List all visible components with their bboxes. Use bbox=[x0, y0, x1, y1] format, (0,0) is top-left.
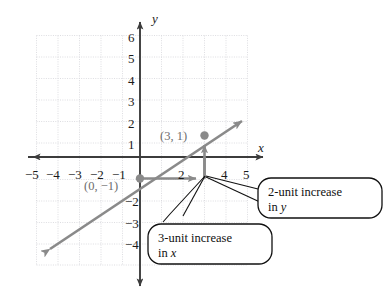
y-tick-2: 2 bbox=[128, 117, 135, 130]
y-tick-4: 4 bbox=[128, 74, 135, 87]
point-3-1 bbox=[200, 131, 208, 139]
x-tick-4: 4 bbox=[221, 168, 228, 181]
callout-rise-text: 2-unit increase in y bbox=[268, 185, 342, 215]
y-tick-minus3: −3 bbox=[125, 217, 139, 230]
x-tick-minus4: −4 bbox=[46, 168, 60, 181]
y-tick-minus2: −2 bbox=[125, 195, 139, 208]
x-tick-5: 5 bbox=[243, 168, 250, 181]
y-tick-1: 1 bbox=[128, 138, 135, 151]
y-axis-label: y bbox=[152, 12, 158, 25]
x-tick-minus5: −5 bbox=[25, 168, 39, 181]
point-label-0-minus1: (0, −1) bbox=[84, 180, 118, 193]
x-tick-minus3: −3 bbox=[68, 168, 82, 181]
callout-rise-line1: 2-unit increase bbox=[268, 185, 342, 199]
callout-run-line2-prefix: in bbox=[158, 246, 171, 260]
y-tick-minus4: −4 bbox=[125, 238, 139, 251]
x-axis-label: x bbox=[258, 141, 264, 154]
callout-run-line2-var: x bbox=[171, 246, 177, 260]
point-0-minus1 bbox=[136, 174, 144, 182]
y-tick-3: 3 bbox=[128, 95, 135, 108]
callout-run-text: 3-unit increase in x bbox=[158, 231, 232, 261]
callout-rise-line2-var: y bbox=[281, 200, 287, 214]
y-tick-6: 6 bbox=[128, 31, 135, 44]
callout-run-line1: 3-unit increase bbox=[158, 231, 232, 245]
x-tick-2: 2 bbox=[178, 168, 185, 181]
y-tick-5: 5 bbox=[128, 52, 135, 65]
callout-rise-line2-prefix: in bbox=[268, 200, 281, 214]
slope-graph-figure: −5 −4 −3 −2 −1 2 4 5 6 5 4 3 2 1 −2 −3 −… bbox=[0, 0, 386, 298]
point-label-3-1: (3, 1) bbox=[160, 130, 187, 143]
